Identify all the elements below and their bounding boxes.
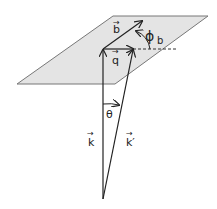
label-k: → k: [87, 129, 95, 149]
label-theta: θ: [106, 108, 113, 121]
scattering-diagram: → b ϕ b → q θ → k → k′: [0, 0, 217, 209]
label-k-prime: → k′: [126, 129, 135, 149]
label-b: → b: [113, 18, 120, 36]
label-q: → q: [112, 47, 119, 67]
svg-text:ϕ: ϕ: [145, 28, 154, 44]
theta-angle-arc: [103, 104, 119, 105]
svg-text:q: q: [112, 54, 119, 67]
svg-text:k: k: [88, 136, 95, 149]
svg-text:b: b: [113, 23, 120, 36]
svg-text:b: b: [157, 35, 163, 46]
svg-text:k′: k′: [126, 136, 135, 149]
